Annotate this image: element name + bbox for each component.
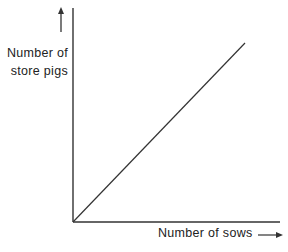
x-arrow-icon <box>258 232 283 238</box>
chart-plot <box>0 0 288 252</box>
y-axis-label-line-1: Number of <box>7 44 68 62</box>
y-axis-label: Number of store pigs <box>7 44 68 80</box>
x-axis-label: Number of sows <box>158 226 253 240</box>
data-line <box>73 43 245 222</box>
y-axis-label-line-2: store pigs <box>7 62 68 80</box>
y-arrow-icon <box>58 7 64 32</box>
